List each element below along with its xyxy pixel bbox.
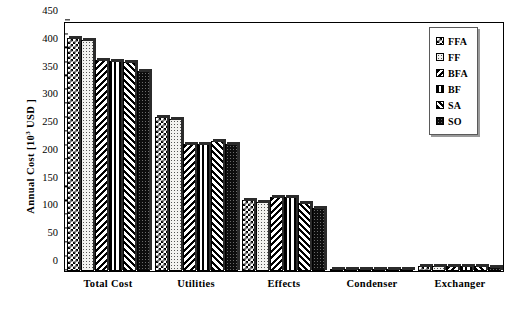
legend-item-bfa[interactable]: BFA xyxy=(436,65,468,81)
legend-label: BFA xyxy=(448,68,468,79)
bar-ffa-exchanger xyxy=(418,266,431,271)
bar-ff-total-cost xyxy=(81,40,94,271)
x-axis-label-effects: Effects xyxy=(240,278,328,289)
y-axis-tick-mark xyxy=(65,19,70,20)
bar-bf-condenser xyxy=(372,269,385,271)
bar-so-condenser xyxy=(400,269,413,271)
legend-swatch-sa-icon xyxy=(436,101,444,109)
bar-bfa-condenser xyxy=(358,269,371,271)
bar-bfa-total-cost xyxy=(95,60,108,271)
y-axis-tick-label: 50 xyxy=(48,227,66,238)
y-axis-tick-label: 450 xyxy=(42,5,65,16)
bar-group xyxy=(328,23,416,271)
bar-bf-exchanger xyxy=(460,266,473,271)
y-axis-tick-label: 0 xyxy=(53,255,65,266)
bar-sa-effects xyxy=(298,203,311,271)
legend-item-so[interactable]: SO xyxy=(436,113,468,129)
y-axis-tick-label: 300 xyxy=(42,88,65,99)
legend-label: SO xyxy=(448,116,462,127)
bar-so-total-cost xyxy=(137,71,150,271)
legend-swatch-so-icon xyxy=(436,117,444,125)
bar-ff-effects xyxy=(256,202,269,271)
x-axis-label-condenser: Condenser xyxy=(328,278,416,289)
legend-item-ff[interactable]: FF xyxy=(436,49,468,65)
bar-ff-utilities xyxy=(169,119,182,271)
bar-ff-exchanger xyxy=(432,266,445,271)
y-axis-tick-label: 150 xyxy=(42,171,65,182)
legend-swatch-bf-icon xyxy=(436,85,444,93)
bar-ffa-total-cost xyxy=(67,38,80,271)
bar-bf-total-cost xyxy=(109,61,122,271)
legend: FFAFFBFABFSASO xyxy=(429,27,478,135)
legend-item-bf[interactable]: BF xyxy=(436,81,468,97)
y-axis-tick-label: 350 xyxy=(42,60,65,71)
legend-label: FFA xyxy=(448,36,467,47)
bar-so-effects xyxy=(312,208,325,271)
legend-swatch-bfa-icon xyxy=(436,69,444,77)
bar-group xyxy=(240,23,328,271)
bar-sa-total-cost xyxy=(123,62,136,271)
y-axis-tick-label: 200 xyxy=(42,143,65,154)
bar-sa-condenser xyxy=(386,269,399,271)
y-axis-title-prefix: Annual Cost [10 xyxy=(25,135,36,214)
legend-swatch-ff-icon xyxy=(436,53,444,61)
bar-ffa-effects xyxy=(242,200,255,271)
bar-ff-condenser xyxy=(344,269,357,271)
bar-bfa-effects xyxy=(270,197,283,271)
y-axis-tick-label: 100 xyxy=(42,199,65,210)
bar-bfa-utilities xyxy=(183,144,196,271)
bar-ffa-condenser xyxy=(330,269,343,271)
y-axis-title-suffix: USD ] xyxy=(25,99,36,131)
x-axis-label-total-cost: Total Cost xyxy=(64,278,152,289)
bar-so-exchanger xyxy=(488,267,501,271)
y-axis-title-exponent: 3 xyxy=(24,131,32,135)
legend-label: BF xyxy=(448,84,461,95)
bar-ffa-utilities xyxy=(155,117,168,271)
bar-sa-exchanger xyxy=(474,266,487,271)
bar-so-utilities xyxy=(225,144,238,271)
x-axis-label-exchanger: Exchanger xyxy=(416,278,504,289)
bar-sa-utilities xyxy=(211,141,224,271)
y-axis-title: Annual Cost [103 USD ] xyxy=(24,66,37,246)
bar-bfa-exchanger xyxy=(446,266,459,271)
legend-item-sa[interactable]: SA xyxy=(436,97,468,113)
legend-label: SA xyxy=(448,100,461,111)
y-axis-tick-label: 400 xyxy=(42,32,65,43)
legend-item-ffa[interactable]: FFA xyxy=(436,33,468,49)
bar-group xyxy=(65,23,153,271)
x-axis-label-utilities: Utilities xyxy=(152,278,240,289)
bar-group xyxy=(153,23,241,271)
bar-chart-figure: Annual Cost [103 USD ] 05010015020025030… xyxy=(0,0,516,311)
legend-label: FF xyxy=(448,52,461,63)
bar-bf-utilities xyxy=(197,144,210,271)
y-axis-tick-label: 250 xyxy=(42,116,65,127)
x-axis-category-labels: Total CostUtilitiesEffectsCondenserExcha… xyxy=(64,278,504,289)
bar-bf-effects xyxy=(284,197,297,271)
legend-swatch-ffa-icon xyxy=(436,37,444,45)
